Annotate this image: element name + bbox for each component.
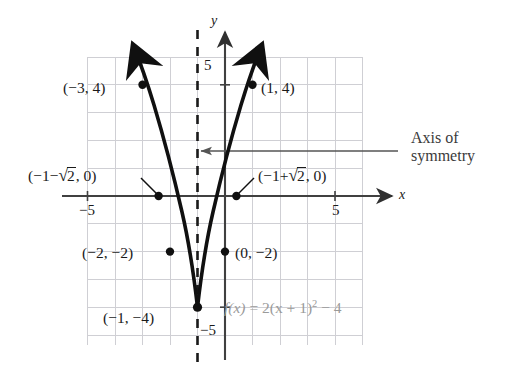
point-label-neg2-neg2: (−2, −2) xyxy=(82,245,133,261)
point-marker xyxy=(138,81,146,89)
root-left-prefix: (−1− xyxy=(28,167,58,184)
axis-x xyxy=(62,191,392,201)
equation-equals: = xyxy=(246,299,263,316)
graph-canvas xyxy=(0,0,515,380)
x-tick-label-5: 5 xyxy=(332,203,340,218)
x-tick-label-negative-5: −5 xyxy=(79,203,95,218)
point-label-neg3-4: (−3, 4) xyxy=(63,80,105,96)
point-label-0-neg2: (0, −2) xyxy=(235,245,277,261)
point-marker xyxy=(221,247,229,255)
point-label-1-4: (1, 4) xyxy=(261,80,295,96)
radical-right: √2 xyxy=(288,167,305,184)
point-label-vertex: (−1, −4) xyxy=(103,310,154,326)
axis-label-x: x xyxy=(399,188,405,202)
axis-of-symmetry-annotation: Axis of symmetry xyxy=(411,129,475,166)
radicand-right: 2 xyxy=(297,167,306,184)
radicand-left: 2 xyxy=(67,167,76,184)
radical-left: √2 xyxy=(58,167,75,184)
root-right-suffix: , 0) xyxy=(306,167,327,184)
y-tick-label-negative-5: −5 xyxy=(200,323,216,338)
point-marker xyxy=(248,81,256,89)
root-left-suffix: , 0) xyxy=(76,167,97,184)
axis-label-y: y xyxy=(211,14,217,28)
equation-lhs: f(x) xyxy=(224,299,246,316)
point-label-root-right: (−1+√2, 0) xyxy=(258,167,326,184)
annotation-line-1: Axis of xyxy=(411,129,475,147)
point-marker xyxy=(166,247,174,255)
equation-rhs-tail: − 4 xyxy=(317,299,341,316)
equation-rhs-base: 2(x + 1) xyxy=(262,299,312,316)
point-marker xyxy=(193,303,202,312)
function-equation-label: f(x) = 2(x + 1)2 − 4 xyxy=(224,299,342,316)
graph-figure: (−3, 4) (1, 4) (−1−√2, 0) (−1+√2, 0) (−2… xyxy=(0,0,515,380)
y-tick-label-5: 5 xyxy=(204,58,212,73)
point-label-root-left: (−1−√2, 0) xyxy=(28,167,96,184)
annotation-line-2: symmetry xyxy=(411,147,475,165)
root-right-prefix: (−1+ xyxy=(258,167,288,184)
